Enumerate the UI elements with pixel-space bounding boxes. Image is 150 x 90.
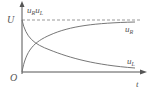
curve-u-l-label: uL: [127, 56, 136, 67]
y-axis-label: uRuL: [27, 5, 44, 16]
curve-u-r: [22, 22, 135, 72]
x-axis-arrow-icon: [140, 70, 147, 75]
rl-voltage-diagram: uRuL U O t uR uL: [0, 0, 150, 90]
y-axis-arrow-icon: [20, 1, 25, 7]
curve-u-r-label: uR: [125, 24, 134, 35]
curve-u-l: [22, 20, 135, 68]
x-axis-label: t: [136, 79, 139, 89]
origin-label: O: [10, 72, 17, 83]
level-u-label: U: [7, 14, 15, 25]
